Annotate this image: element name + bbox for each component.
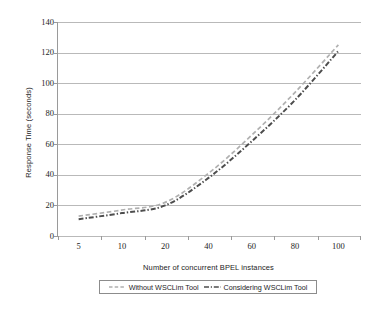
y-axis-tick-labels: 140120100806040200 — [26, 0, 54, 310]
x-tick-label: 10 — [100, 242, 143, 251]
gridline — [58, 53, 361, 54]
x-tick-label: 40 — [187, 242, 230, 251]
y-tick-label: 80 — [28, 109, 54, 118]
y-tick-label: 60 — [28, 140, 54, 149]
y-tickmark — [54, 144, 58, 145]
plot-area — [57, 22, 361, 237]
y-tick-label: 120 — [28, 48, 54, 57]
chart-legend: Without WSCLim Tool Considering WSCLim T… — [99, 280, 317, 294]
x-tickmark — [101, 236, 102, 240]
chart-container: Response Time (seconds) 1401201008060402… — [0, 0, 385, 310]
legend-line-icon-series-2 — [204, 285, 221, 289]
y-tickmark — [54, 114, 58, 115]
legend-entry-without-wsclim: Without WSCLim Tool — [109, 283, 199, 292]
x-tick-label: 20 — [144, 242, 187, 251]
x-axis-title: Number of concurrent BPEL instances — [57, 263, 360, 272]
y-tick-label: 0 — [28, 232, 54, 241]
x-tickmark — [360, 236, 361, 240]
legend-label-series-2: Considering WSCLim Tool — [224, 283, 308, 292]
x-tickmark — [231, 236, 232, 240]
x-tick-label: 60 — [230, 242, 273, 251]
y-tickmark — [54, 83, 58, 84]
y-tick-label: 40 — [28, 170, 54, 179]
gridline — [58, 144, 361, 145]
x-tickmark — [58, 236, 59, 240]
x-tickmark — [318, 236, 319, 240]
y-tick-label: 140 — [28, 18, 54, 27]
y-tickmark — [54, 53, 58, 54]
y-tick-label: 100 — [28, 79, 54, 88]
x-tickmark — [145, 236, 146, 240]
y-tickmark — [54, 205, 58, 206]
x-tickmark — [274, 236, 275, 240]
gridline — [58, 175, 361, 176]
gridline — [58, 114, 361, 115]
gridline — [58, 22, 361, 23]
gridline — [58, 205, 361, 206]
legend-label-series-1: Without WSCLim Tool — [129, 283, 199, 292]
y-tick-label: 20 — [28, 201, 54, 210]
x-tick-label: 5 — [57, 242, 100, 251]
legend-line-icon-series-1 — [109, 285, 126, 289]
x-tickmark — [188, 236, 189, 240]
y-tickmark — [54, 175, 58, 176]
x-tick-label: 100 — [317, 242, 360, 251]
legend-entry-considering-wsclim: Considering WSCLim Tool — [204, 283, 308, 292]
gridline — [58, 83, 361, 84]
y-tickmark — [54, 22, 58, 23]
x-tick-label: 80 — [273, 242, 316, 251]
gridline — [58, 236, 361, 237]
